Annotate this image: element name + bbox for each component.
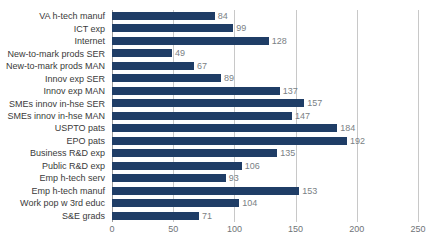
bar-row: 192 bbox=[112, 135, 418, 147]
gridline-250 bbox=[418, 10, 419, 222]
bar bbox=[112, 37, 269, 45]
x-tick-label: 50 bbox=[168, 224, 178, 234]
bar-row: 67 bbox=[112, 60, 418, 72]
bar-row: 71 bbox=[112, 210, 418, 222]
bar-rows: 8499128496789137157147184192135106931531… bbox=[112, 10, 418, 222]
bar-row: 106 bbox=[112, 160, 418, 172]
bar-value-label: 128 bbox=[272, 35, 287, 47]
category-label: USPTO pats bbox=[55, 123, 108, 133]
category-label: Emp h-tech serv bbox=[39, 173, 108, 183]
x-tick-label: 0 bbox=[109, 224, 114, 234]
bar-value-label: 99 bbox=[236, 22, 246, 34]
category-label: Business R&D exp bbox=[30, 148, 108, 158]
category-label-row: Innov exp SER bbox=[0, 72, 108, 84]
x-tick-label: 150 bbox=[288, 224, 303, 234]
category-label-row: Business R&D exp bbox=[0, 147, 108, 159]
bar bbox=[112, 24, 233, 32]
bar-row: 128 bbox=[112, 35, 418, 47]
bar-row: 184 bbox=[112, 122, 418, 134]
bar-value-label: 153 bbox=[302, 185, 317, 197]
category-label-row: ICT exp bbox=[0, 22, 108, 34]
bar bbox=[112, 74, 221, 82]
bar-value-label: 106 bbox=[245, 160, 260, 172]
bar-value-label: 89 bbox=[224, 72, 234, 84]
category-label: Public R&D exp bbox=[42, 161, 108, 171]
bar-value-label: 147 bbox=[295, 110, 310, 122]
bar-value-label: 135 bbox=[280, 147, 295, 159]
x-tick-label: 100 bbox=[227, 224, 242, 234]
bar-value-label: 104 bbox=[242, 197, 257, 209]
bar bbox=[112, 174, 226, 182]
category-label: ICT exp bbox=[74, 24, 108, 34]
category-label: VA h-tech manuf bbox=[39, 11, 108, 21]
bar-value-label: 84 bbox=[218, 10, 228, 22]
category-label: Innov exp MAN bbox=[43, 86, 108, 96]
category-label-row: Emp h-tech serv bbox=[0, 172, 108, 184]
category-label-row: S&E grads bbox=[0, 210, 108, 222]
category-label-row: SMEs innov in-hse MAN bbox=[0, 110, 108, 122]
bar-value-label: 67 bbox=[197, 60, 207, 72]
bar-value-label: 93 bbox=[229, 172, 239, 184]
category-label-row: EPO pats bbox=[0, 135, 108, 147]
category-label: SMEs innov in-hse SER bbox=[9, 99, 108, 109]
x-axis-ticks: 050100150200250 bbox=[112, 222, 418, 238]
bar-value-label: 71 bbox=[202, 210, 212, 222]
bar-row: 84 bbox=[112, 10, 418, 22]
bar-row: 137 bbox=[112, 85, 418, 97]
bar-value-label: 192 bbox=[350, 135, 365, 147]
category-label-row: Innov exp MAN bbox=[0, 85, 108, 97]
bar-row: 99 bbox=[112, 22, 418, 34]
bar-row: 147 bbox=[112, 110, 418, 122]
category-label-row: Emp h-tech manuf bbox=[0, 185, 108, 197]
category-label-row: USPTO pats bbox=[0, 122, 108, 134]
bar-value-label: 184 bbox=[340, 122, 355, 134]
category-label-row: VA h-tech manuf bbox=[0, 10, 108, 22]
bar bbox=[112, 212, 199, 220]
category-label-row: Internet bbox=[0, 35, 108, 47]
bar bbox=[112, 87, 280, 95]
bar-value-label: 49 bbox=[175, 47, 185, 59]
bar-row: 104 bbox=[112, 197, 418, 209]
category-label: Work pop w 3rd educ bbox=[20, 198, 108, 208]
category-label: Internet bbox=[74, 36, 108, 46]
category-axis-labels: VA h-tech manufICT expInternetNew-to-mar… bbox=[0, 10, 108, 222]
category-label: New-to-mark prods MAN bbox=[6, 61, 108, 71]
bar-row: 89 bbox=[112, 72, 418, 84]
bar-row: 93 bbox=[112, 172, 418, 184]
bar-value-label: 137 bbox=[283, 85, 298, 97]
bar-row: 49 bbox=[112, 47, 418, 59]
bar-chart: VA h-tech manufICT expInternetNew-to-mar… bbox=[0, 0, 440, 244]
category-label-row: Public R&D exp bbox=[0, 160, 108, 172]
x-tick-label: 200 bbox=[349, 224, 364, 234]
bar bbox=[112, 199, 239, 207]
category-label: Emp h-tech manuf bbox=[31, 186, 108, 196]
category-label-row: Work pop w 3rd educ bbox=[0, 197, 108, 209]
category-label: S&E grads bbox=[62, 211, 108, 221]
category-label: Innov exp SER bbox=[45, 74, 108, 84]
bar-row: 157 bbox=[112, 97, 418, 109]
bar bbox=[112, 99, 304, 107]
category-label-row: New-to-mark prods MAN bbox=[0, 60, 108, 72]
category-label: SMEs innov in-hse MAN bbox=[7, 111, 108, 121]
category-label-row: SMEs innov in-hse SER bbox=[0, 97, 108, 109]
category-label-row: New-to-mark prods SER bbox=[0, 47, 108, 59]
category-label: New-to-mark prods SER bbox=[7, 49, 108, 59]
bar bbox=[112, 49, 172, 57]
bar-row: 153 bbox=[112, 185, 418, 197]
plot-area: 8499128496789137157147184192135106931531… bbox=[112, 10, 418, 222]
bar bbox=[112, 112, 292, 120]
bar bbox=[112, 187, 299, 195]
category-label: EPO pats bbox=[66, 136, 108, 146]
bar bbox=[112, 137, 347, 145]
bar bbox=[112, 12, 215, 20]
bar-row: 135 bbox=[112, 147, 418, 159]
x-tick-label: 250 bbox=[410, 224, 425, 234]
bar bbox=[112, 62, 194, 70]
bar bbox=[112, 149, 277, 157]
bar-value-label: 157 bbox=[307, 97, 322, 109]
bar bbox=[112, 124, 337, 132]
bar bbox=[112, 162, 242, 170]
